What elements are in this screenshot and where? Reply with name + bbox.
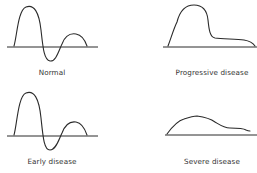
panel-normal-waveform: [7, 6, 98, 61]
waveform-early: [14, 92, 87, 150]
label-progressive-disease: Progressive disease: [176, 68, 249, 77]
label-early-disease: Early disease: [27, 157, 76, 166]
waveform-normal: [14, 6, 87, 61]
panel-early-waveform: [7, 92, 98, 150]
panel-severe-waveform: [165, 116, 257, 135]
waveform-progressive: [168, 5, 255, 46]
waveform-diagram: [0, 0, 257, 173]
waveform-severe: [167, 116, 250, 134]
panel-progressive-waveform: [163, 5, 257, 47]
label-severe-disease: Severe disease: [184, 157, 240, 166]
label-normal: Normal: [39, 68, 66, 77]
